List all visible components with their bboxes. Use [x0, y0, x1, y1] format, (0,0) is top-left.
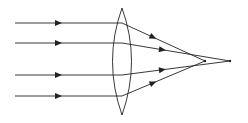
ray-arrow-icon: [149, 33, 158, 41]
ray-arrow-icon: [159, 46, 167, 53]
refracted-ray: [122, 23, 205, 61]
ray-arrow-icon: [149, 79, 158, 87]
ray-arrow-icon: [55, 20, 62, 26]
ray-arrow-icon: [55, 72, 62, 78]
focal-point: [204, 60, 206, 62]
refracted-ray: [122, 61, 205, 96]
convex-lens: [113, 8, 132, 115]
lens-diagram: [0, 0, 248, 123]
ray-arrow-icon: [159, 66, 167, 73]
refracted-ray: [122, 43, 230, 61]
ray-arrow-icon: [55, 93, 62, 99]
focal-point: [229, 60, 231, 62]
ray-arrow-icon: [55, 40, 62, 46]
